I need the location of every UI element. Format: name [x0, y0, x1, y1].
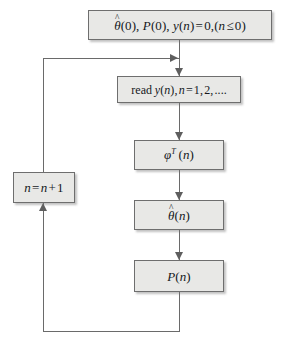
theta-hat-accent-2: ^ [169, 204, 174, 213]
parameter-estimate-box-label: ^θ(n) [168, 209, 190, 222]
edge-init-to-read-arrowhead [175, 68, 183, 76]
theta-hat-accent: ^ [115, 14, 120, 23]
covariance-matrix-box[interactable]: P(n) [134, 260, 224, 292]
edge-p-across-line [43, 331, 180, 332]
edge-read-to-phi-arrowhead [175, 132, 183, 140]
increment-counter-box-label: n = n + 1 [24, 181, 63, 194]
increment-counter-box[interactable]: n = n + 1 [13, 172, 75, 203]
covariance-matrix-box-label: P(n) [167, 270, 191, 283]
edge-theta-to-p-arrowhead [175, 252, 183, 260]
edge-increment-to-read-arrowhead [170, 54, 178, 62]
edge-p-up-to-increment-line [43, 203, 44, 331]
edge-increment-across-line [43, 58, 180, 59]
regressor-vector-box[interactable]: φT (n) [134, 140, 224, 170]
regressor-vector-box-label: φT (n) [164, 148, 194, 161]
initialization-box[interactable]: ^θ(0), P(0), y(n) = 0,(n ≤ 0) [88, 10, 272, 40]
edge-phi-to-theta-arrowhead [175, 192, 183, 200]
edge-increment-up-line [43, 58, 44, 172]
read-data-box-label: read y(n), n = 1, 2, .... [131, 84, 227, 96]
parameter-estimate-box[interactable]: ^θ(n) [134, 200, 224, 230]
initialization-box-label: ^θ(0), P(0), y(n) = 0,(n ≤ 0) [114, 19, 246, 32]
read-data-box[interactable]: read y(n), n = 1, 2, .... [117, 76, 241, 103]
edge-p-to-increment-arrowhead [39, 203, 47, 211]
flowchart-canvas: ^θ(0), P(0), y(n) = 0,(n ≤ 0) read y(n),… [0, 0, 283, 345]
edge-p-down-line [179, 292, 180, 332]
